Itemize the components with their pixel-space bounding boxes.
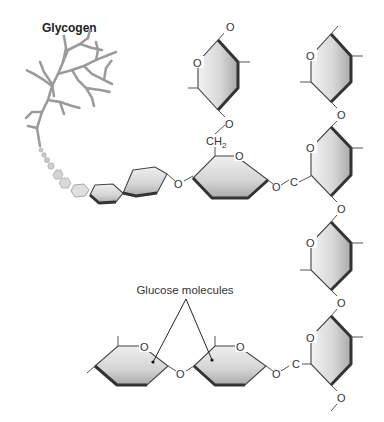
ring-oxygen: O <box>306 237 315 249</box>
ring-oxygen: O <box>306 50 315 62</box>
glycogen-branch-tree <box>26 30 116 146</box>
oxygen-atom: O <box>176 368 185 380</box>
glucose-molecules-label: Glucose molecules <box>136 284 233 296</box>
oxygen-atom: O <box>226 21 235 33</box>
glycogen-diagram: Glycogen O <box>0 0 384 422</box>
oxygen-atom: O <box>337 297 346 309</box>
carbon-atom: C <box>290 176 298 188</box>
glucose-ring-column-1: O <box>300 26 363 102</box>
ring-oxygen: O <box>306 142 315 154</box>
oxygen-atom: O <box>337 392 346 404</box>
glucose-ring-column-3: O <box>300 215 363 290</box>
glucose-ring-column-4: O <box>302 309 363 385</box>
glucose-ring-branch-point: O <box>193 147 268 198</box>
oxygen-atom: O <box>272 368 281 380</box>
ring-oxygen: O <box>140 341 149 353</box>
glucose-ring-bottom-1: O <box>87 336 168 385</box>
carbon-atom: C <box>292 358 300 370</box>
oxygen-atom: O <box>225 118 234 130</box>
ring-oxygen: O <box>236 341 245 353</box>
ch2-group: CH2 <box>206 135 227 150</box>
glucose-chain-growing <box>39 148 175 203</box>
ring-oxygen: O <box>193 57 202 69</box>
oxygen-atom: O <box>272 181 281 193</box>
ring-oxygen: O <box>235 150 244 162</box>
ring-oxygen: O <box>306 332 315 344</box>
oxygen-atom: O <box>174 178 183 190</box>
glucose-ring-side-branch: O <box>188 33 250 110</box>
glucose-ring-column-2: O <box>305 121 363 196</box>
caption-pointer-lines <box>153 299 212 362</box>
oxygen-atom: O <box>337 109 346 121</box>
oxygen-atom: O <box>337 203 346 215</box>
